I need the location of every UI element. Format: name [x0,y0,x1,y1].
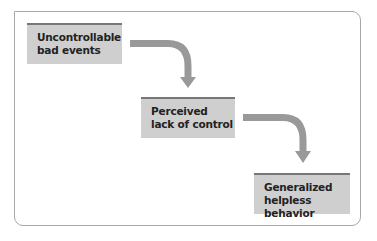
node-1-line-2: bad events [37,44,122,57]
node-2-line-2: lack of control [151,118,235,131]
curved-arrow-icon-1 [130,44,196,89]
node-1-line-1: Uncontrollable [37,31,122,44]
node-perceived-lack-of-control: Perceived lack of control [141,97,235,138]
node-generalized-helpless-behavior: Generalized helpless behavior [254,173,350,214]
node-uncontrollable-bad-events: Uncontrollable bad events [27,23,122,64]
node-2-line-1: Perceived [151,105,235,118]
node-3-line-2: helpless behavior [264,194,350,220]
curved-arrow-icon-2 [243,118,311,164]
node-3-line-1: Generalized [264,181,350,194]
